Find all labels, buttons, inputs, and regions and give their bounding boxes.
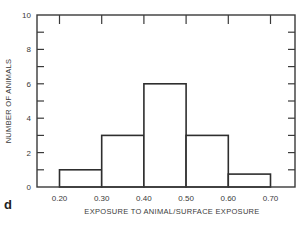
histogram-bar: [186, 135, 228, 187]
x-tick-label: 0.70: [263, 194, 279, 203]
y-tick-label: 8: [27, 45, 32, 54]
y-tick-label: 0: [27, 183, 32, 192]
histogram-bar: [144, 84, 186, 187]
histogram-bar: [228, 174, 270, 187]
y-tick-label: 10: [22, 11, 31, 20]
histogram-chart: 02468100.200.300.400.500.600.70EXPOSURE …: [0, 0, 308, 226]
x-tick-label: 0.50: [178, 194, 194, 203]
x-tick-label: 0.60: [221, 194, 237, 203]
y-tick-label: 2: [27, 149, 32, 158]
x-tick-label: 0.30: [94, 194, 110, 203]
histogram-bar: [60, 170, 102, 187]
y-axis-label: NUMBER OF ANIMALS: [4, 59, 13, 144]
y-tick-label: 4: [27, 114, 32, 123]
histogram-bar: [102, 135, 144, 187]
y-tick-label: 6: [27, 80, 32, 89]
panel-label: d: [4, 197, 12, 212]
x-axis-label: EXPOSURE TO ANIMAL/SURFACE EXPOSURE: [84, 207, 259, 216]
x-tick-label: 0.40: [136, 194, 152, 203]
x-tick-label: 0.20: [52, 194, 68, 203]
